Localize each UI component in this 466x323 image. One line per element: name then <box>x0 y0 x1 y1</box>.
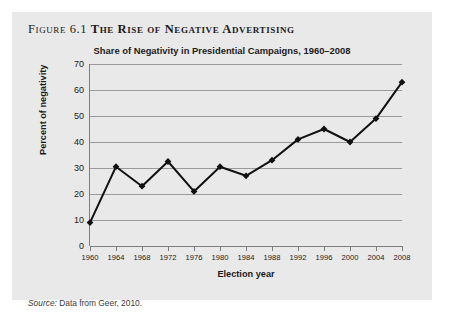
x-tick-label-2004: 2004 <box>368 253 385 262</box>
data-series-line <box>90 64 402 246</box>
y-tick-label-60: 60 <box>74 85 84 95</box>
figure-number: Figure 6.1 <box>28 22 87 36</box>
y-tick-label-10: 10 <box>74 215 84 225</box>
figure-panel: Figure 6.1 The Rise of Negative Advertis… <box>12 12 432 300</box>
x-tick-1960 <box>90 246 91 251</box>
x-tick-1996 <box>324 246 325 251</box>
x-tick-1968 <box>142 246 143 251</box>
x-tick-label-1976: 1976 <box>186 253 203 262</box>
series-line <box>90 82 402 222</box>
y-axis-title: Percent of negativity <box>38 65 48 155</box>
source-note: Source: Data from Geer, 2010. <box>28 298 142 308</box>
x-tick-label-1988: 1988 <box>264 253 281 262</box>
y-tick-label-70: 70 <box>74 59 84 69</box>
x-tick-1964 <box>116 246 117 251</box>
x-tick-1984 <box>246 246 247 251</box>
x-tick-1980 <box>220 246 221 251</box>
x-tick-label-1996: 1996 <box>316 253 333 262</box>
source-text: Data from Geer, 2010. <box>59 298 142 308</box>
x-tick-label-1984: 1984 <box>238 253 255 262</box>
y-tick-label-30: 30 <box>74 163 84 173</box>
x-tick-2008 <box>402 246 403 251</box>
x-tick-label-1964: 1964 <box>108 253 125 262</box>
x-tick-1972 <box>168 246 169 251</box>
y-tick-label-50: 50 <box>74 111 84 121</box>
x-tick-label-2000: 2000 <box>342 253 359 262</box>
chart-title: Share of Negativity in Presidential Camp… <box>12 45 432 56</box>
x-tick-label-2008: 2008 <box>394 253 411 262</box>
source-label: Source: <box>28 298 57 308</box>
y-tick-label-40: 40 <box>74 137 84 147</box>
x-tick-1976 <box>194 246 195 251</box>
x-axis-title: Election year <box>90 269 402 279</box>
plot-area: 010203040506070 196019641968197219761980… <box>90 64 402 246</box>
x-tick-2000 <box>350 246 351 251</box>
x-tick-label-1992: 1992 <box>290 253 307 262</box>
y-tick-label-0: 0 <box>79 241 84 251</box>
x-tick-label-1980: 1980 <box>212 253 229 262</box>
y-tick-label-20: 20 <box>74 189 84 199</box>
x-tick-label-1972: 1972 <box>160 253 177 262</box>
x-tick-1992 <box>298 246 299 251</box>
figure-heading: Figure 6.1 The Rise of Negative Advertis… <box>28 22 295 37</box>
data-point-1996 <box>321 126 328 133</box>
figure-title-text: The Rise of Negative Advertising <box>91 22 295 36</box>
x-tick-label-1968: 1968 <box>134 253 151 262</box>
data-point-1960 <box>87 219 94 226</box>
x-tick-1988 <box>272 246 273 251</box>
x-tick-2004 <box>376 246 377 251</box>
x-tick-label-1960: 1960 <box>82 253 99 262</box>
